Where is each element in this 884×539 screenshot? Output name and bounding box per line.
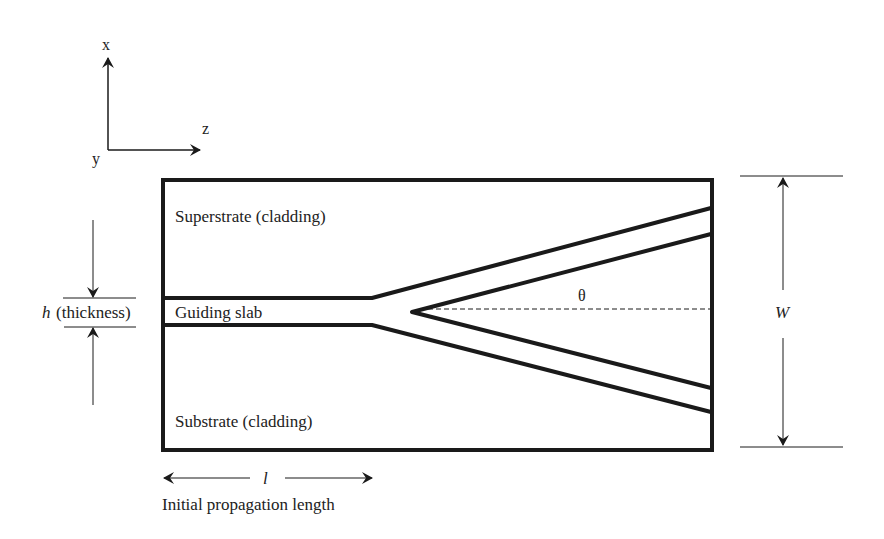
thickness-symbol: h (42, 303, 51, 322)
z-axis-label: z (202, 120, 209, 137)
width-dimension (740, 176, 843, 447)
length-symbol: l (263, 469, 268, 488)
thickness-label: (thickness) (56, 303, 131, 322)
guiding-slab-label: Guiding slab (175, 303, 262, 322)
branch-inner-edges (412, 234, 711, 388)
angle-theta-label: θ (578, 287, 586, 304)
substrate-label: Substrate (cladding) (175, 412, 312, 431)
propagation-length-label: Initial propagation length (162, 495, 335, 514)
superstrate-label: Superstrate (cladding) (175, 207, 326, 226)
y-axis-label: y (92, 150, 100, 168)
y-branch-waveguide-diagram: x y z θ Superstrate (cladding) Guiding s… (0, 0, 884, 539)
width-symbol: W (775, 303, 791, 322)
coordinate-axes (108, 58, 200, 150)
x-axis-label: x (102, 36, 110, 53)
